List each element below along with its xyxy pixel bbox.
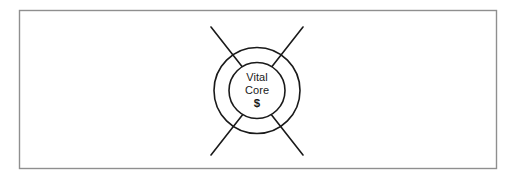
core-label-line-2: Core [245, 84, 269, 96]
core-label-symbol: $ [254, 97, 261, 109]
vital-core-diagram: Vital Core $ [0, 0, 513, 183]
diagram-canvas: Vital Core $ [0, 0, 513, 183]
core-label-line-1: Vital [246, 71, 268, 83]
